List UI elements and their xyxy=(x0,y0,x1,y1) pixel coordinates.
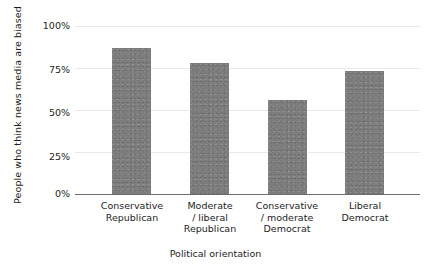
x-axis-title: Political orientation xyxy=(0,248,431,259)
y-tick-label-50: 50% xyxy=(36,108,70,118)
gridline-100 xyxy=(75,26,420,27)
y-tick-label-75: 75% xyxy=(36,65,70,75)
y-tick-label-0: 0% xyxy=(36,189,70,199)
x-axis-line xyxy=(75,194,420,195)
bar-moderate-liberal-republican[interactable] xyxy=(190,63,229,194)
bar-liberal-democrat[interactable] xyxy=(345,71,384,194)
x-tick-label-liberal-democrat: LiberalDemocrat xyxy=(313,200,417,223)
x-tick-label-line: Democrat xyxy=(235,223,339,235)
y-tick-label-100: 100% xyxy=(36,21,70,31)
bar-conservative-republican[interactable] xyxy=(112,48,151,194)
chart-figure: People who think news media are biased 1… xyxy=(0,0,431,268)
y-axis-title: People who think news media are biased xyxy=(10,5,26,205)
x-tick-label-line: Democrat xyxy=(313,212,417,224)
bar-conservative-moderate-democrat[interactable] xyxy=(268,100,307,194)
x-tick-label-line: Liberal xyxy=(313,200,417,212)
plot-area xyxy=(75,26,420,194)
y-tick-label-25: 25% xyxy=(36,152,70,162)
y-axis-tick-labels: 100% 75% 50% 25% 0% xyxy=(30,0,70,268)
